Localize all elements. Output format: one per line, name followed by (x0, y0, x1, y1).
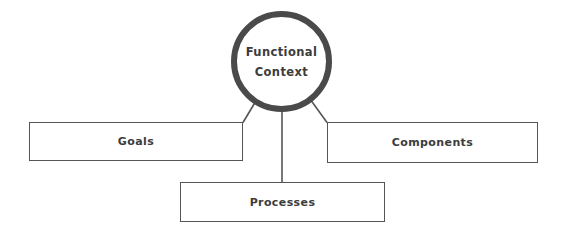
node-components[interactable] (327, 122, 538, 163)
node-functional-context[interactable] (231, 11, 332, 112)
connector-center-to-components (310, 99, 327, 123)
node-goals[interactable] (29, 122, 243, 161)
diagram-canvas: Functional Context Goals Components Proc… (0, 0, 564, 236)
node-processes[interactable] (180, 182, 385, 222)
